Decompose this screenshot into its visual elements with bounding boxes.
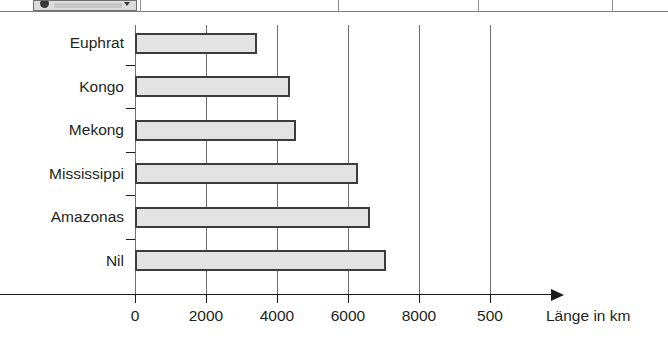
- bar-kongo: [135, 76, 290, 97]
- strip-column-divider-2: [338, 0, 339, 12]
- x-tick-4000: [277, 295, 278, 303]
- x-tick-500: [490, 295, 491, 303]
- y-tick-3: [126, 195, 135, 196]
- gridline-8000: [419, 25, 420, 294]
- y-tick-label-mississippi: Mississippi: [0, 165, 124, 183]
- y-label-wrap-4: Amazonas: [0, 208, 124, 226]
- x-axis-title: Länge in km: [546, 307, 630, 325]
- strip-horizontal-rule: [0, 11, 668, 12]
- cropped-table-strip: [0, 0, 668, 13]
- x-tick-0: [135, 295, 136, 303]
- bar-chart: 02000400060008000500Länge in kmEuphratKo…: [0, 13, 668, 348]
- y-tick-label-mekong: Mekong: [0, 121, 124, 139]
- strip-column-divider-3: [478, 0, 479, 12]
- y-tick-1: [126, 108, 135, 109]
- plot-area: 02000400060008000500Länge in kmEuphratKo…: [0, 13, 668, 348]
- y-tick-0: [126, 65, 135, 66]
- strip-column-divider-1: [140, 0, 141, 12]
- x-tick-8000: [419, 295, 420, 303]
- y-label-wrap-5: Nil: [0, 252, 124, 270]
- y-label-wrap-2: Mekong: [0, 121, 124, 139]
- chevron-down-icon[interactable]: [124, 2, 130, 6]
- bar-euphrat: [135, 33, 257, 54]
- circle-icon: [40, 0, 49, 8]
- x-tick-6000: [348, 295, 349, 303]
- y-tick-label-amazonas: Amazonas: [0, 208, 124, 226]
- y-label-wrap-0: Euphrat: [0, 34, 124, 52]
- y-label-wrap-3: Mississippi: [0, 165, 124, 183]
- y-tick-2: [126, 152, 135, 153]
- y-tick-label-nil: Nil: [0, 252, 124, 270]
- chip-label: [54, 3, 122, 8]
- y-label-wrap-1: Kongo: [0, 78, 124, 96]
- gridline-500: [490, 25, 491, 294]
- bar-nil: [135, 250, 386, 271]
- y-tick-4: [126, 239, 135, 240]
- strip-column-divider-4: [612, 0, 613, 12]
- strip-dropdown-chip[interactable]: [33, 0, 137, 11]
- bar-mississippi: [135, 163, 358, 184]
- y-tick-label-euphrat: Euphrat: [0, 34, 124, 52]
- bar-mekong: [135, 120, 296, 141]
- x-axis-arrow-icon: [551, 289, 564, 301]
- y-tick-label-kongo: Kongo: [0, 78, 124, 96]
- x-tick-label-5: 500: [440, 307, 540, 325]
- x-tick-2000: [206, 295, 207, 303]
- bar-amazonas: [135, 207, 370, 228]
